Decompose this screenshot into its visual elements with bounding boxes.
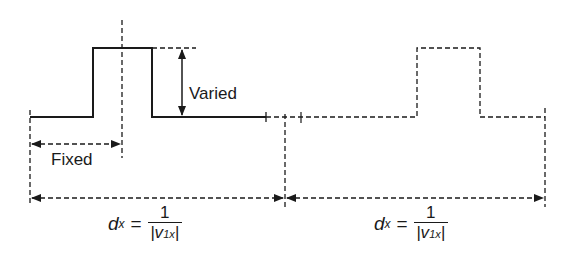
period-formula-2: dx = 1 |v1x| [374, 204, 448, 244]
formula-den-sub: 1x [163, 228, 175, 240]
solid-pulse [30, 48, 266, 117]
formula-sub: x [385, 217, 391, 231]
formula-den: |v [150, 223, 163, 242]
varied-label: Varied [189, 84, 237, 104]
formula-den-close: | [175, 223, 179, 242]
formula-var: d [108, 213, 119, 235]
formula-var: d [374, 213, 385, 235]
formula-num: 1 [426, 204, 435, 222]
formula-fraction: 1 |v1x| [148, 204, 182, 244]
period-formula-1: dx = 1 |v1x| [108, 204, 182, 244]
formula-den-close: | [441, 223, 445, 242]
fixed-label: Fixed [51, 150, 93, 170]
formula-den: |v [416, 223, 429, 242]
dashed-pulse [266, 48, 545, 117]
formula-eq: = [131, 213, 142, 235]
formula-eq: = [397, 213, 408, 235]
formula-sub: x [119, 217, 125, 231]
formula-num: 1 [160, 204, 169, 222]
pulse-diagram [0, 0, 574, 255]
formula-fraction: 1 |v1x| [414, 204, 448, 244]
formula-den-sub: 1x [429, 228, 441, 240]
